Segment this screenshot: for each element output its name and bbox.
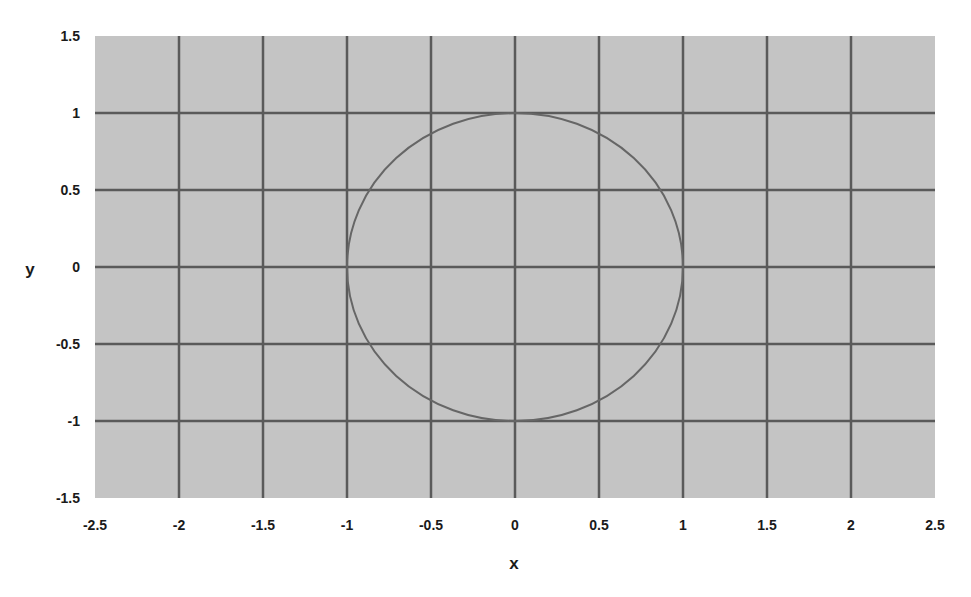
x-axis-label: x (509, 554, 519, 573)
x-tick-label: 0 (511, 517, 519, 533)
y-tick-label: -1 (68, 413, 81, 429)
x-tick-label: -2.5 (83, 517, 107, 533)
x-tick-label: -1 (341, 517, 354, 533)
x-tick-label: 2.5 (925, 517, 945, 533)
y-tick-label: 0.5 (61, 182, 81, 198)
x-tick-label: -2 (173, 517, 186, 533)
circle-chart: 1.510.50-0.5-1-1.5 -2.5-2-1.5-1-0.500.51… (0, 0, 971, 597)
y-tick-label: -1.5 (56, 490, 80, 506)
x-tick-label: 0.5 (589, 517, 609, 533)
x-tick-label: -0.5 (419, 517, 443, 533)
x-tick-label: 2 (847, 517, 855, 533)
x-tick-label: -1.5 (251, 517, 275, 533)
y-axis-label: y (25, 260, 35, 279)
x-tick-label: 1.5 (757, 517, 777, 533)
x-axis-ticks: -2.5-2-1.5-1-0.500.511.522.5 (83, 517, 945, 533)
y-tick-label: -0.5 (56, 336, 80, 352)
y-tick-label: 0 (72, 259, 80, 275)
y-tick-label: 1 (72, 105, 80, 121)
x-tick-label: 1 (679, 517, 687, 533)
y-axis-ticks: 1.510.50-0.5-1-1.5 (56, 28, 80, 506)
y-tick-label: 1.5 (61, 28, 81, 44)
